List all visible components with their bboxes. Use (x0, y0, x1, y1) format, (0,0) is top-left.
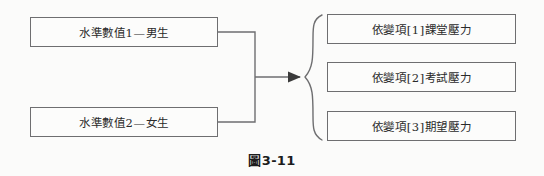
dependent-variable-box-2-label: 依變項[2]考試壓力 (372, 69, 471, 85)
figure-caption: 圖3-11 (0, 150, 544, 169)
level-box-2: 水準數值2—女生 (30, 107, 218, 137)
dependent-variable-box-3: 依變項[3]期望壓力 (327, 111, 516, 141)
dependent-variable-box-1-label: 依變項[1]課堂壓力 (372, 21, 471, 37)
level-box-2-label: 水準數值2—女生 (79, 114, 169, 130)
left-group-bracket (218, 32, 300, 122)
level-box-1-label: 水準數值1—男生 (79, 24, 169, 40)
figure-caption-prefix: 圖 (248, 153, 261, 168)
figure-diagram: 水準數值1—男生 水準數值2—女生 依變項[1]課堂壓力 依變項[2]考試壓力 … (0, 0, 544, 176)
dependent-variable-box-1: 依變項[1]課堂壓力 (327, 14, 516, 44)
flow-arrow (288, 72, 301, 83)
figure-caption-number: 3-11 (262, 153, 296, 168)
level-box-1: 水準數值1—男生 (30, 17, 218, 47)
dependent-variable-box-3-label: 依變項[3]期望壓力 (372, 118, 471, 134)
dependent-variable-box-2: 依變項[2]考試壓力 (327, 62, 516, 92)
right-group-brace (305, 15, 322, 140)
